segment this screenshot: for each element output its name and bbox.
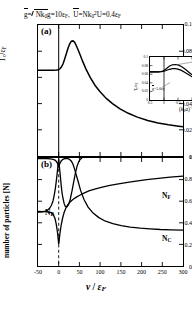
inset-annotation-g5: g=5.0εF [152,86,165,92]
inset-xlabel: (k0a)-1 [164,106,192,113]
inset-plot [150,57,192,100]
k-subscript: 0 [44,13,47,19]
xtick-7: 300 [170,269,192,275]
panel-b-label: (b) [41,159,52,169]
inset-exp: -1 [190,106,192,110]
title-comma: , [68,11,70,19]
inset-ytick-4: 0.08 [137,64,148,68]
inset-xtick-0: 0.5 [143,101,157,105]
xlabel-F: F [101,285,106,293]
Tc-F: F [1,46,7,49]
title-val1: =10 [51,11,62,19]
xlabel-nu: ν [86,282,90,292]
panel-b-plot [38,158,183,266]
sqrt-N-k0: Nk0 [32,9,47,22]
Tc-eps: ε [0,49,7,52]
inset-ytick-3: 0.06 [137,72,148,76]
anno-g5-F: F [163,88,165,92]
U-bar-symbol: U [73,9,78,21]
curve-label-NF: NF [162,191,171,200]
g-bar-symbol: g [24,9,28,21]
Tc-c: c [1,55,7,57]
figure-xlabel: ν / εF [0,282,192,293]
inset-slash: / [133,86,138,87]
inset-xtick-2: -0.5 [171,101,185,105]
curve-label-NC: NC [162,234,171,243]
figure-title: g=Nk0g=10εF, U=Nk02U=0.4εF [24,7,192,21]
inset-F: F [135,82,139,84]
xlabel-slash: / [93,282,96,292]
panel-b: (b) [37,157,184,267]
NC-sub: C [167,237,171,243]
panel-a-label: (a) [41,26,52,36]
panel-b-ylabel: number of particles [N] [2,183,11,258]
anno-g5-gbar: g [152,86,154,91]
NF-sub: F [167,194,170,200]
inset-xtick-3: -1 [185,101,192,105]
NB-sub: B [50,211,54,217]
inset-eps: ε [133,84,138,86]
inset-c: c [135,87,139,88]
panel-a: (a) [37,24,184,157]
figure-root: g=Nk0g=10εF, U=Nk02U=0.4εF 0.1 0.08 0.06… [0,0,192,314]
inset-ytick-5: 0.1 [137,55,148,59]
inset-xtick-1: 0 [157,101,171,105]
inset-plot-frame: 0.1 0.08 0.06 0.04 0.02 0 Tc/εF 0.5 0 -0… [149,56,192,101]
U2-symbol: U=0.4 [97,11,115,19]
Tc-T: T [0,57,7,62]
curve-label-NB: NB [45,208,54,217]
inset-T: T [133,88,138,91]
panel-a-ylabel: Tc/εF [0,46,7,62]
eps-sub-F2: F [118,13,121,19]
inset-ylabel: Tc/εF [133,82,139,91]
